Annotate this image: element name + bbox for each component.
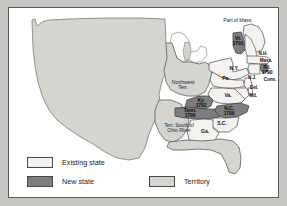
map-figure: Part of Mass. Northwest Terr. Terr. Sout… [0,0,287,206]
terr-south-of-ohio-shape [155,100,189,142]
south-carolina-shape [212,117,239,132]
legend-item-existing-state: Existing state [27,157,105,168]
legend-item-new-state: New state [27,176,94,187]
legend-swatch-new-state [27,176,53,187]
vermont-shape [233,32,245,54]
legend-label-new-state: New state [62,177,94,186]
rhode-island-shape [260,64,268,73]
connecticut-shape [248,64,260,74]
western-territory-shape [32,18,171,160]
map-legend: Existing state New state Territory [9,153,278,197]
north-carolina-shape [215,103,249,118]
legend-label-territory: Territory [184,177,210,186]
legend-label-existing-state: Existing state [62,158,105,167]
massachusetts-shape [247,56,271,64]
legend-swatch-existing-state [27,157,53,168]
map-panel: Part of Mass. Northwest Terr. Terr. Sout… [8,7,279,198]
legend-swatch-territory [149,176,175,187]
legend-item-territory: Territory [149,176,210,187]
